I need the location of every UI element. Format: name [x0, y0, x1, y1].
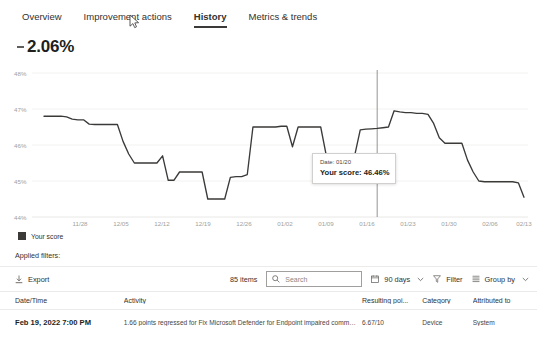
toolbar-right-group: 85 items Search: [230, 271, 529, 287]
export-button[interactable]: Export: [15, 275, 49, 284]
group-by-dropdown[interactable]: Group by: [472, 275, 529, 284]
tab-metrics-and-trends-label: Metrics & trends: [249, 11, 318, 22]
chevron-down-icon: [522, 277, 529, 282]
tab-bar: Overview Improvement actions History Met…: [0, 0, 537, 31]
column-header-datetime[interactable]: Date/Time: [15, 297, 124, 304]
date-range-dropdown[interactable]: 90 days: [371, 275, 424, 284]
tab-overview[interactable]: Overview: [22, 11, 62, 28]
tooltip-score: Your score: 46.46%: [320, 167, 388, 178]
y-tick-label: 48%: [14, 70, 27, 77]
search-input[interactable]: Search: [266, 271, 362, 287]
decrease-dash-icon: [17, 46, 24, 48]
chart-series-your-score: [44, 111, 524, 199]
item-count: 85 items: [230, 275, 257, 284]
group-by-label: Group by: [485, 275, 515, 284]
cell-datetime: Feb 19, 2022 7:00 PM: [15, 318, 124, 327]
cell-category: Device: [422, 319, 473, 326]
chart-legend: Your score: [0, 228, 537, 240]
x-tick-label: 11/28: [72, 220, 88, 227]
table-row[interactable]: Feb 19, 2022 7:00 PM 1.66 points regress…: [0, 310, 537, 334]
chart-canvas: 48% 47% 46% 45% 44% 11/28 12/05 12/12 12…: [0, 62, 537, 228]
legend-label-your-score: Your score: [31, 233, 63, 240]
x-tick-label: 01/30: [441, 220, 457, 227]
score-delta-value: 2.06%: [27, 37, 74, 57]
tab-overview-label: Overview: [22, 11, 62, 22]
calendar-icon: [371, 275, 379, 283]
applied-filters-label: Applied filters:: [0, 240, 537, 260]
column-header-category[interactable]: Category: [422, 297, 473, 304]
x-tick-label: 01/23: [400, 220, 416, 227]
chart-gridlines: [32, 73, 528, 217]
cell-activity: 1.66 points regressed for Fix Microsoft …: [124, 319, 362, 326]
table-toolbar: Export 85 items Search: [0, 266, 537, 292]
column-header-attributed-to[interactable]: Attributed to: [473, 297, 531, 304]
score-delta: 2.06%: [0, 31, 537, 57]
legend-swatch-your-score: [18, 232, 26, 240]
history-table: Date/Time Activity Resulting poi... Cate…: [0, 292, 537, 334]
x-tick-label: 02/13: [516, 220, 532, 227]
tab-history-label: History: [194, 11, 227, 22]
column-header-activity[interactable]: Activity: [124, 297, 362, 304]
tab-improvement-actions[interactable]: Improvement actions: [84, 11, 172, 28]
search-placeholder: Search: [285, 276, 307, 283]
x-tick-label: 12/19: [195, 220, 211, 227]
history-page: Overview Improvement actions History Met…: [0, 0, 537, 345]
download-icon: [15, 275, 23, 284]
table-header-row: Date/Time Activity Resulting poi... Cate…: [0, 292, 537, 310]
tooltip-date: Date: 01/20: [320, 158, 388, 167]
cell-attributed-to: System: [473, 319, 531, 326]
x-tick-label: 12/12: [154, 220, 170, 227]
export-button-label: Export: [28, 275, 49, 284]
x-tick-label: 01/16: [359, 220, 375, 227]
y-tick-label: 44%: [14, 214, 27, 221]
tab-metrics-and-trends[interactable]: Metrics & trends: [249, 11, 318, 28]
search-icon: [272, 275, 280, 283]
date-range-label: 90 days: [384, 275, 410, 284]
list-icon: [472, 275, 480, 283]
chart-y-axis: 48% 47% 46% 45% 44%: [14, 70, 27, 221]
cell-resulting-points: 6.67/10: [362, 319, 422, 326]
chevron-down-icon: [417, 277, 424, 282]
y-tick-label: 46%: [14, 142, 27, 149]
x-tick-label: 12/26: [236, 220, 252, 227]
x-tick-label: 01/09: [318, 220, 334, 227]
tab-history[interactable]: History: [194, 11, 227, 28]
x-tick-label: 12/05: [113, 220, 129, 227]
score-history-chart: 48% 47% 46% 45% 44% 11/28 12/05 12/12 12…: [0, 62, 537, 228]
column-header-resulting-points[interactable]: Resulting poi...: [362, 297, 422, 304]
chart-tooltip: Date: 01/20 Your score: 46.46%: [312, 153, 396, 184]
chart-x-axis: 11/28 12/05 12/12 12/19 12/26 01/02 01/0…: [72, 220, 532, 227]
y-tick-label: 47%: [14, 106, 27, 113]
tab-improvement-actions-label: Improvement actions: [84, 11, 172, 22]
filter-button[interactable]: Filter: [433, 275, 462, 284]
filter-button-label: Filter: [446, 275, 462, 284]
y-tick-label: 45%: [14, 178, 27, 185]
x-tick-label: 01/02: [277, 220, 293, 227]
x-tick-label: 02/06: [482, 220, 498, 227]
funnel-icon: [433, 275, 441, 283]
